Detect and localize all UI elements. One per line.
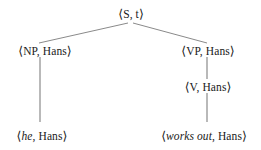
v-category: V — [190, 81, 197, 93]
edge-root-to-vp — [133, 23, 207, 43]
tree-node-vp: ⟨VP, Hans⟩ — [181, 45, 234, 58]
v-value: Hans — [202, 81, 226, 93]
angle-bracket-close-icon: ⟩ — [230, 44, 235, 58]
np-value: Hans — [43, 45, 67, 57]
leaf-he-word: he — [21, 130, 32, 142]
tree-node-v: ⟨V, Hans⟩ — [185, 81, 232, 94]
leaf-works-out-value: Hans — [218, 130, 242, 142]
tree-node-root: ⟨S, t⟩ — [118, 8, 144, 21]
leaf-works-out-word: works out — [166, 130, 212, 142]
angle-bracket-close-icon: ⟩ — [67, 44, 72, 58]
vp-category: VP — [186, 45, 200, 57]
np-category: NP — [23, 45, 37, 57]
angle-bracket-close-icon: ⟩ — [242, 129, 247, 143]
tree-node-np: ⟨NP, Hans⟩ — [18, 45, 71, 58]
tree-leaf-he: ⟨he, Hans⟩ — [17, 130, 68, 143]
tree-edge-layer — [0, 0, 261, 150]
tree-leaf-works-out: ⟨works out, Hans⟩ — [161, 130, 247, 143]
edge-root-to-np — [39, 23, 128, 43]
vp-value: Hans — [206, 45, 230, 57]
syntax-tree-figure: ⟨S, t⟩ ⟨NP, Hans⟩ ⟨VP, Hans⟩ ⟨V, Hans⟩ ⟨… — [0, 0, 261, 150]
leaf-he-value: Hans — [38, 130, 62, 142]
angle-bracket-close-icon: ⟩ — [139, 7, 144, 21]
angle-bracket-close-icon: ⟩ — [226, 80, 231, 94]
angle-bracket-close-icon: ⟩ — [63, 129, 68, 143]
